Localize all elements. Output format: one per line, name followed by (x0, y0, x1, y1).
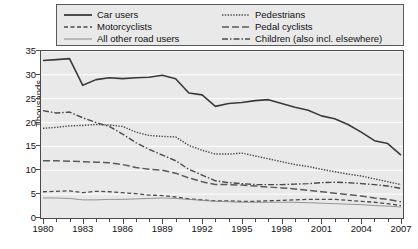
y-tick-label: 20 (14, 118, 36, 127)
x-tick-label: 2007 (381, 224, 418, 234)
legend-label-car-users: Car users (97, 9, 138, 20)
chart-figure: Car users Motorcyclists All other road u… (0, 0, 418, 249)
x-tick-label: 2004 (341, 224, 381, 234)
x-tick-mark (83, 219, 84, 224)
legend-key-solid-thin (63, 33, 93, 44)
x-tick-mark (321, 219, 322, 224)
x-tick-mark (282, 219, 283, 224)
legend-entry-car-users: Car users (63, 8, 179, 20)
x-tick-mark (162, 219, 163, 224)
x-tick-mark (176, 219, 177, 222)
y-tick-label: 25 (14, 94, 36, 103)
x-tick-mark (348, 219, 349, 222)
legend-column-right: Pedestrians Pedal cyclists Children (als… (221, 8, 382, 44)
x-tick-label: 2001 (301, 224, 341, 234)
legend-key-solid-thick (63, 9, 93, 20)
legend-label-motorcyclists: Motorcyclists (97, 21, 152, 32)
x-tick-mark (189, 219, 190, 222)
legend-label-all-other-road-users: All other road users (97, 33, 179, 44)
chart-legend: Car users Motorcyclists All other road u… (56, 4, 404, 46)
x-tick-mark (268, 219, 269, 222)
x-tick-label: 1980 (23, 224, 63, 234)
x-tick-label: 1983 (63, 224, 103, 234)
x-tick-mark (374, 219, 375, 222)
x-tick-mark (56, 219, 57, 222)
series-line-all-other-road-users (43, 198, 401, 207)
chart-lines (41, 51, 403, 218)
x-axis-tick-labels: 1980198319861989199219951998200120042007 (0, 224, 418, 238)
x-tick-mark (255, 219, 256, 222)
x-tick-label: 1998 (262, 224, 302, 234)
legend-key-dashed (63, 21, 93, 32)
x-tick-label: 1989 (142, 224, 182, 234)
x-tick-label: 1995 (222, 224, 262, 234)
x-tick-mark (242, 219, 243, 224)
x-tick-label: 1992 (182, 224, 222, 234)
y-tick-label: 15 (14, 141, 36, 150)
x-tick-mark (229, 219, 230, 222)
legend-entry-pedal-cyclists: Pedal cyclists (221, 20, 382, 32)
x-tick-mark (149, 219, 150, 222)
legend-entry-motorcyclists: Motorcyclists (63, 20, 179, 32)
legend-entry-children: Children (also incl. elsewhere) (221, 32, 382, 44)
legend-key-dotted (221, 9, 251, 20)
series-line-car-users (43, 59, 401, 155)
legend-label-pedestrians: Pedestrians (255, 9, 305, 20)
legend-key-dashdot (221, 33, 251, 44)
x-tick-mark (136, 219, 137, 222)
legend-key-longdash (221, 21, 251, 32)
x-tick-mark (43, 219, 44, 224)
y-tick-label: 0 (14, 213, 36, 222)
legend-entry-pedestrians: Pedestrians (221, 8, 382, 20)
x-tick-mark (295, 219, 296, 222)
x-tick-mark (335, 219, 336, 222)
x-tick-mark (109, 219, 110, 222)
x-tick-label: 1986 (103, 224, 143, 234)
x-tick-mark (202, 219, 203, 224)
legend-column-left: Car users Motorcyclists All other road u… (63, 8, 179, 44)
x-tick-mark (123, 219, 124, 224)
series-line-pedal-cyclists (43, 161, 401, 202)
plot-area (40, 50, 404, 219)
x-tick-mark (96, 219, 97, 222)
legend-label-children: Children (also incl. elsewhere) (255, 33, 382, 44)
x-tick-mark (361, 219, 362, 224)
y-tick-label: 5 (14, 189, 36, 198)
legend-label-pedal-cyclists: Pedal cyclists (255, 21, 313, 32)
y-tick-label: 10 (14, 165, 36, 174)
y-axis-tick-labels: 05101520253035 (10, 0, 36, 249)
series-line-pedestrians (43, 124, 401, 184)
x-tick-mark (401, 219, 402, 224)
x-tick-mark (70, 219, 71, 222)
legend-entry-all-other-road-users: All other road users (63, 32, 179, 44)
y-tick-label: 35 (14, 46, 36, 55)
x-tick-mark (215, 219, 216, 222)
x-tick-mark (388, 219, 389, 222)
series-line-motorcyclists (43, 191, 401, 206)
y-tick-label: 30 (14, 70, 36, 79)
x-tick-mark (308, 219, 309, 222)
